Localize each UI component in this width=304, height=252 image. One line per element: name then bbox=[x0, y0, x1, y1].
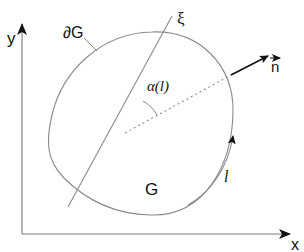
x-axis-label: x bbox=[291, 236, 299, 252]
normal-vector-label: n bbox=[271, 58, 279, 75]
y-axis-label: y bbox=[7, 29, 16, 48]
angle-label: α(l) bbox=[147, 78, 169, 95]
boundary-leader-line bbox=[84, 38, 97, 51]
boundary-label: ∂G bbox=[63, 24, 83, 41]
axes: y x bbox=[7, 24, 299, 252]
region-label: G bbox=[145, 180, 158, 199]
xi-label: ξ bbox=[177, 9, 185, 28]
geometry-diagram: y x ∂G ξ α(l) n l G bbox=[0, 0, 304, 252]
xi-axis-line bbox=[68, 16, 172, 207]
normal-vector-arrow bbox=[231, 56, 268, 75]
angle-arc bbox=[143, 101, 157, 115]
radius-dotted-line bbox=[125, 75, 231, 133]
normal-vector-label-group: n bbox=[270, 58, 280, 75]
boundary-curve bbox=[48, 32, 233, 215]
arc-length-label: l bbox=[224, 168, 229, 185]
